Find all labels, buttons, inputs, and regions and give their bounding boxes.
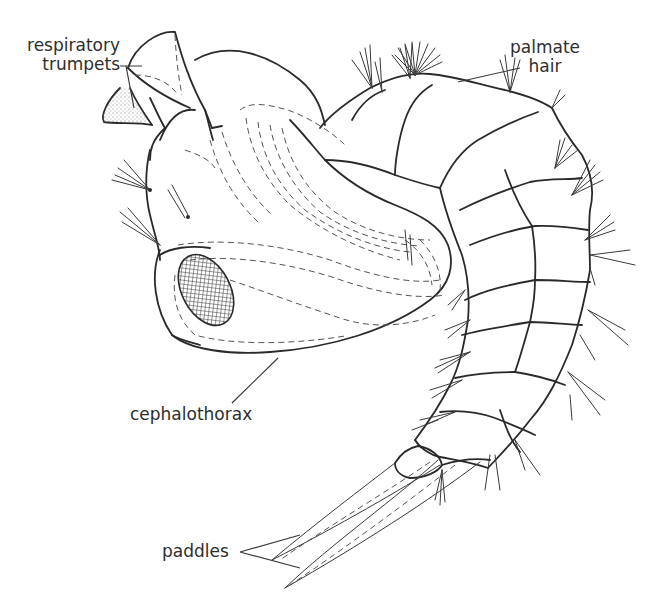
label-trumpets-line2: trumpets: [12, 55, 120, 74]
label-respiratory-line1: respiratory: [12, 36, 120, 55]
pupa-diagram: respiratory trumpets palmate hair cephal…: [0, 0, 662, 613]
label-palmate-line1: palmate: [505, 38, 585, 57]
respiratory-trumpets: [103, 32, 222, 140]
label-hair-line2: hair: [505, 57, 585, 76]
label-cephalothorax: cephalothorax: [130, 405, 252, 424]
pupa-illustration: [0, 0, 662, 613]
abdominal-setae: [352, 44, 635, 505]
leader-lines: [120, 66, 520, 568]
paddles: [272, 460, 480, 588]
palmate-hair: [395, 42, 442, 75]
label-palmate-hair: palmate hair: [505, 38, 585, 76]
label-paddles: paddles: [162, 542, 229, 561]
cephalothorax: [112, 51, 451, 353]
abdomen: [320, 42, 635, 505]
label-respiratory-trumpets: respiratory trumpets: [12, 36, 120, 74]
